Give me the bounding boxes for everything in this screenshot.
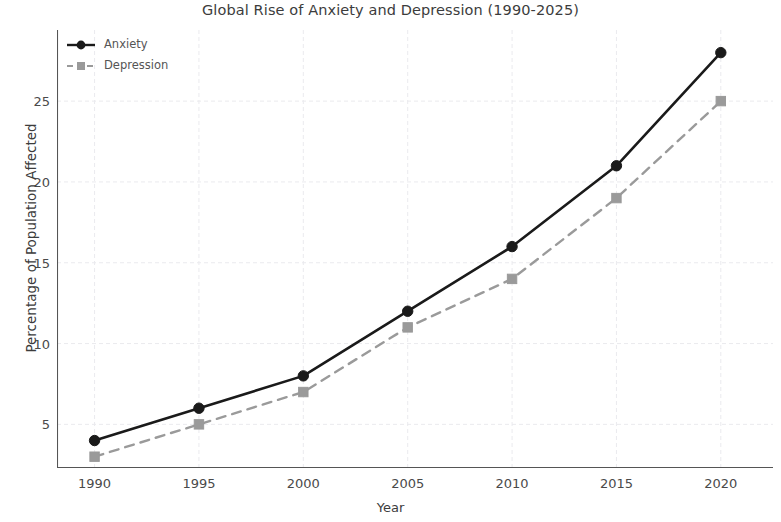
x-axis-label: Year	[0, 500, 781, 515]
data-point-anxiety-1995	[194, 403, 204, 413]
data-point-anxiety-1990	[89, 435, 99, 445]
grid-lines	[57, 30, 773, 468]
x-tick-label-1995: 1995	[182, 476, 215, 491]
y-tick-label-5: 5	[42, 417, 50, 432]
data-point-anxiety-2000	[298, 371, 308, 381]
x-tick-label-1990: 1990	[78, 476, 111, 491]
legend-swatch-depression-icon	[66, 58, 96, 72]
legend-item-depression[interactable]: Depression	[66, 57, 168, 72]
legend-item-anxiety[interactable]: Anxiety	[66, 36, 168, 51]
plot-area	[57, 30, 773, 468]
x-tick-label-2010: 2010	[496, 476, 529, 491]
chart-figure: Global Rise of Anxiety and Depression (1…	[0, 0, 781, 522]
legend-label-depression: Depression	[104, 58, 168, 72]
data-point-depression-2015	[612, 193, 621, 202]
line-chart-svg	[57, 30, 773, 468]
legend-swatch-anxiety-icon	[66, 37, 96, 51]
chart-legend: AnxietyDepression	[66, 36, 168, 72]
data-point-anxiety-2015	[611, 161, 621, 171]
x-tick-label-2005: 2005	[391, 476, 424, 491]
x-tick-label-2015: 2015	[600, 476, 633, 491]
data-point-depression-2005	[403, 323, 412, 332]
legend-label-anxiety: Anxiety	[104, 37, 148, 51]
data-point-depression-2000	[299, 387, 308, 396]
data-point-depression-1995	[194, 420, 203, 429]
data-point-depression-2010	[507, 274, 516, 283]
x-axis-tick-labels: 1990199520002005201020152020	[0, 476, 781, 496]
data-point-depression-1990	[90, 452, 99, 461]
x-tick-label-2000: 2000	[287, 476, 320, 491]
axis-spines	[57, 30, 773, 468]
data-point-anxiety-2005	[402, 306, 412, 316]
data-point-anxiety-2010	[507, 241, 517, 251]
chart-title: Global Rise of Anxiety and Depression (1…	[0, 2, 781, 18]
x-tick-label-2020: 2020	[704, 476, 737, 491]
data-point-depression-2020	[716, 96, 725, 105]
data-point-anxiety-2020	[716, 47, 726, 57]
tick-marks	[57, 101, 721, 468]
y-axis-label: Percentage of Population Affected	[23, 88, 39, 388]
